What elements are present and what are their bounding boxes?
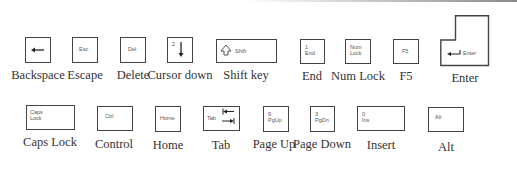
key-label: Home	[160, 115, 175, 121]
key-end: 1 End	[300, 39, 325, 64]
top-divider-line	[245, 0, 517, 2]
key-page-up: 9 PgUp	[263, 106, 289, 132]
key-label: F5	[402, 48, 408, 54]
key-caps-lock: Caps Lock	[26, 105, 75, 130]
caption-f5: F5	[399, 69, 412, 84]
caption-alt: Alt	[438, 140, 454, 155]
key-insert: 0 Ins	[357, 106, 405, 131]
key-label-2: Lock	[350, 50, 362, 56]
down-arrow-icon	[167, 37, 193, 63]
key-home: Home	[155, 106, 181, 132]
caption-cursor-down: Cursor down	[148, 68, 213, 83]
key-enter: Enter	[440, 15, 490, 67]
caption-escape: Escape	[67, 68, 102, 83]
key-f5: F5	[393, 39, 419, 64]
key-label: Shift	[235, 48, 246, 54]
key-delete: Del	[120, 37, 146, 63]
key-label-2: Lock	[30, 115, 42, 121]
key-label: Tab	[207, 115, 216, 121]
key-label: Alt	[435, 114, 441, 120]
caption-insert: Insert	[367, 138, 395, 153]
shift-arrow-icon	[220, 43, 234, 59]
key-num-lock: Num Lock	[345, 39, 371, 64]
key-tab: Tab	[203, 106, 240, 131]
caption-caps-lock: Caps Lock	[23, 135, 77, 150]
tab-arrows-icon	[219, 107, 237, 129]
key-label: Del	[128, 46, 136, 52]
caption-tab: Tab	[212, 138, 231, 153]
caption-shift: Shift key	[223, 68, 268, 83]
key-label-2: Ins	[362, 117, 369, 123]
key-label-2: PgUp	[268, 117, 282, 123]
key-label: Esc	[79, 46, 88, 52]
key-shift: Shift	[216, 39, 277, 63]
key-label-2: End	[305, 50, 315, 56]
key-page-down: 3 PgDn	[310, 106, 335, 132]
key-label: Ctrl	[105, 113, 114, 119]
enter-key-outline	[440, 15, 490, 67]
key-label: Enter	[463, 50, 476, 56]
caption-control: Control	[95, 137, 133, 152]
key-control: Ctrl	[97, 106, 133, 131]
key-alt: Alt	[428, 107, 464, 132]
caption-page-up: Page Up	[253, 137, 296, 152]
caption-page-down: Page Down	[293, 137, 351, 152]
key-escape: Esc	[72, 37, 98, 63]
caption-num-lock: Num Lock	[331, 69, 385, 84]
caption-home: Home	[153, 138, 184, 153]
caption-delete: Delete	[117, 68, 150, 83]
caption-backspace: Backspace	[11, 68, 64, 83]
key-backspace	[25, 37, 51, 63]
left-arrow-icon	[25, 37, 51, 63]
key-cursor-down: 2	[167, 37, 193, 63]
caption-end: End	[302, 69, 322, 84]
key-label-2: PgDn	[315, 117, 329, 123]
caption-enter: Enter	[451, 71, 478, 86]
